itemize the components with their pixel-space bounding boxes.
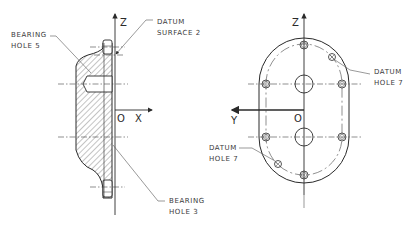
right-plan-view: Z O Y DATUM HOLE 7 DATUM HOLE 7 bbox=[209, 14, 403, 208]
callout-datum-surface-2-line2: SURFACE 2 bbox=[157, 29, 201, 37]
technical-drawing: Z O X BEARING HOLE 5 DATUM SURFACE 2 BEA… bbox=[0, 0, 412, 225]
leader-datum-hole-7-lower bbox=[239, 148, 275, 161]
callout-datum-hole-7-upper-line1: DATUM bbox=[374, 68, 402, 76]
callout-datum-hole-7-upper-line2: HOLE 7 bbox=[374, 79, 403, 87]
y-label-right: Y bbox=[230, 115, 238, 126]
datum-hole-7-upper-symbol bbox=[329, 54, 336, 61]
left-section-view: Z O X BEARING HOLE 5 DATUM SURFACE 2 BEA… bbox=[11, 14, 205, 216]
callout-datum-hole-7-lower-line2: HOLE 7 bbox=[209, 155, 238, 163]
z-label-right: Z bbox=[292, 17, 299, 28]
callout-bearing-hole-3-line1: BEARING bbox=[169, 197, 205, 205]
callout-bearing-hole-5-line1: BEARING bbox=[11, 31, 47, 39]
callout-datum-surface-2-line1: DATUM bbox=[157, 18, 185, 26]
x-label-left: X bbox=[135, 113, 142, 124]
callout-bearing-hole-3-line2: HOLE 3 bbox=[169, 208, 198, 216]
origin-label-right: O bbox=[294, 113, 302, 124]
z-label-left: Z bbox=[120, 17, 127, 28]
callout-bearing-hole-5-line2: HOLE 5 bbox=[11, 42, 40, 50]
datum-hole-7-lower-symbol bbox=[275, 161, 282, 168]
callout-datum-hole-7-lower-line1: DATUM bbox=[209, 144, 237, 152]
origin-label-left: O bbox=[117, 113, 125, 124]
leader-bearing-hole-3 bbox=[113, 145, 165, 201]
section-body bbox=[76, 43, 112, 198]
lower-bolt-hole bbox=[103, 180, 112, 197]
